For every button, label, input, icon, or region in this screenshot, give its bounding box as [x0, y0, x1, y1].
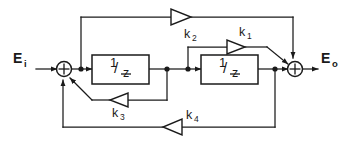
summer-left[interactable]: [57, 62, 72, 77]
gain-label-k2-subscript: 2: [192, 33, 197, 43]
input-label-base: E: [13, 50, 22, 66]
block-diagram-canvas: k 2 k 1 k 3: [0, 0, 350, 155]
node-a-k2-tap: [78, 66, 83, 71]
gain-label-k4-subscript: 4: [194, 114, 199, 124]
gain-triangle-k1[interactable]: [227, 40, 245, 54]
wire-k1-diagonal-to-summer: [267, 47, 288, 64]
delay-block-1[interactable]: 1 / z: [92, 55, 149, 84]
gain-label-k1-subscript: 1: [247, 31, 252, 41]
gain-label-k1-base: k: [239, 25, 246, 39]
gain-label-k3-subscript: 3: [120, 112, 125, 122]
input-label-subscript: i: [24, 58, 27, 69]
wire-k3-diagonal-to-summer: [70, 78, 92, 100]
gain-label-k2-base: k: [184, 27, 191, 41]
gain-triangle-k2[interactable]: [171, 9, 191, 25]
node-b-k3-tap: [164, 66, 169, 71]
delay-block-1-outline: [92, 55, 149, 84]
delay-block-2[interactable]: 1 / z: [201, 55, 258, 84]
gain-label-k3-base: k: [112, 106, 119, 120]
gain-label-k4-base: k: [186, 108, 193, 122]
delay-block-1-denominator: z: [123, 66, 129, 80]
gain-triangle-k3[interactable]: [110, 93, 128, 107]
summer-right[interactable]: [288, 62, 303, 77]
delay-block-2-outline: [201, 55, 258, 84]
gain-triangle-k4[interactable]: [163, 119, 182, 135]
delay-block-2-denominator: z: [232, 66, 238, 80]
node-c-k1-tap: [185, 66, 190, 71]
node-d-k4-tap: [272, 66, 277, 71]
output-label-base: E: [321, 50, 330, 66]
signal-flow-diagram: k 2 k 1 k 3: [0, 0, 350, 155]
output-label-subscript: o: [332, 58, 338, 69]
